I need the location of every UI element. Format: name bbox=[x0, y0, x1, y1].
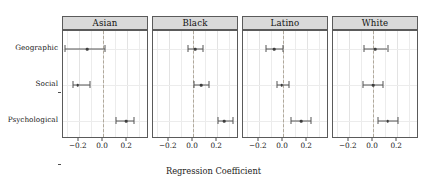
facet-strip-white: White bbox=[332, 16, 418, 30]
facet-white: White−0.20.00.2 bbox=[332, 16, 418, 156]
facet-asian: Asian−0.20.00.2 bbox=[62, 16, 148, 156]
confidence-interval-cap bbox=[89, 81, 90, 88]
facet-strip-latino: Latino bbox=[242, 16, 328, 30]
confidence-interval-cap bbox=[65, 45, 66, 52]
confidence-interval-cap bbox=[194, 81, 195, 88]
confidence-interval-cap bbox=[202, 45, 203, 52]
estimate-point bbox=[86, 48, 89, 51]
confidence-interval-cap bbox=[208, 81, 209, 88]
facet-panel-white bbox=[332, 30, 418, 138]
estimate-point bbox=[200, 84, 203, 87]
confidence-interval-cap bbox=[382, 81, 383, 88]
estimate-point bbox=[374, 48, 377, 51]
confidence-interval-cap bbox=[188, 45, 189, 52]
facet-latino: Latino−0.20.00.2 bbox=[242, 16, 328, 156]
confidence-interval-cap bbox=[282, 45, 283, 52]
x-axis-tick-label: 0.0 bbox=[96, 142, 108, 150]
estimate-point bbox=[273, 48, 276, 51]
x-axis-black: −0.20.00.2 bbox=[152, 138, 238, 156]
facet-strip-black: Black bbox=[152, 16, 238, 30]
estimate-point bbox=[194, 48, 197, 51]
y-axis-label-psychological: Psychological bbox=[8, 116, 58, 124]
facet-panel-latino bbox=[242, 30, 328, 138]
confidence-interval-cap bbox=[364, 45, 365, 52]
x-axis-tick-label: 0.0 bbox=[276, 142, 288, 150]
facet-strip-label: Asian bbox=[92, 19, 117, 28]
y-axis-tick bbox=[58, 164, 61, 165]
confidence-interval-cap bbox=[134, 117, 135, 124]
confidence-interval-cap bbox=[276, 81, 277, 88]
zero-reference-line bbox=[103, 31, 104, 137]
x-axis-white: −0.20.00.2 bbox=[332, 138, 418, 156]
facet-panel-asian bbox=[62, 30, 148, 138]
x-axis-title: Regression Coefficient bbox=[0, 166, 427, 176]
x-axis-tick-label: 0.2 bbox=[120, 142, 132, 150]
facet-black: Black−0.20.00.2 bbox=[152, 16, 238, 156]
confidence-interval-cap bbox=[218, 117, 219, 124]
gridline-horizontal bbox=[243, 49, 327, 50]
x-axis-tick-label: −0.2 bbox=[69, 142, 87, 150]
estimate-point bbox=[300, 120, 303, 123]
facet-strip-asian: Asian bbox=[62, 16, 148, 30]
confidence-interval-bar bbox=[73, 85, 90, 86]
confidence-interval-cap bbox=[398, 117, 399, 124]
confidence-interval-cap bbox=[105, 45, 106, 52]
confidence-interval-cap bbox=[387, 45, 388, 52]
x-axis-latino: −0.20.00.2 bbox=[242, 138, 328, 156]
gridline-horizontal bbox=[243, 121, 327, 122]
facet-strip-label: Latino bbox=[271, 19, 300, 28]
estimate-point bbox=[386, 120, 389, 123]
confidence-interval-cap bbox=[310, 117, 311, 124]
y-axis-tick bbox=[58, 92, 61, 93]
estimate-point bbox=[76, 84, 79, 87]
y-axis-label-social: Social bbox=[36, 80, 59, 88]
facet-strip-label: White bbox=[362, 19, 389, 28]
confidence-interval-cap bbox=[289, 81, 290, 88]
x-axis-tick-label: −0.2 bbox=[249, 142, 267, 150]
estimate-point bbox=[125, 120, 128, 123]
x-axis-asian: −0.20.00.2 bbox=[62, 138, 148, 156]
gridline-horizontal bbox=[333, 121, 417, 122]
x-axis-tick-label: 0.2 bbox=[300, 142, 312, 150]
x-axis-tick-label: 0.2 bbox=[390, 142, 402, 150]
estimate-point bbox=[372, 84, 375, 87]
confidence-interval-cap bbox=[377, 117, 378, 124]
facet-strip-label: Black bbox=[182, 19, 207, 28]
y-axis: GeographicSocialPsychological bbox=[0, 0, 60, 184]
confidence-interval-cap bbox=[72, 81, 73, 88]
facet-panel-black bbox=[152, 30, 238, 138]
x-axis-tick-label: 0.0 bbox=[186, 142, 198, 150]
estimate-point bbox=[280, 84, 283, 87]
facet-grid: Asian−0.20.00.2Black−0.20.00.2Latino−0.2… bbox=[62, 16, 418, 156]
confidence-interval-cap bbox=[291, 117, 292, 124]
x-axis-tick-label: −0.2 bbox=[339, 142, 357, 150]
confidence-interval-cap bbox=[266, 45, 267, 52]
x-axis-tick-label: 0.0 bbox=[366, 142, 378, 150]
regression-coefficient-forest-plot: GeographicSocialPsychological Asian−0.20… bbox=[0, 0, 427, 184]
y-axis-label-geographic: Geographic bbox=[15, 44, 58, 52]
confidence-interval-cap bbox=[232, 117, 233, 124]
x-axis-tick-label: −0.2 bbox=[159, 142, 177, 150]
confidence-interval-cap bbox=[116, 117, 117, 124]
confidence-interval-cap bbox=[363, 81, 364, 88]
estimate-point bbox=[223, 120, 226, 123]
x-axis-tick-label: 0.2 bbox=[210, 142, 222, 150]
